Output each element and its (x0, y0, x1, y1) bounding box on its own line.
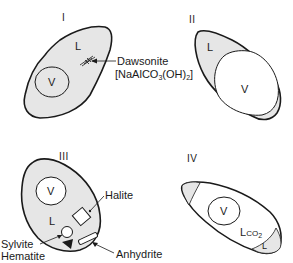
liquid-label-iii: L (49, 215, 55, 227)
halite-label: Halite (105, 189, 133, 201)
hematite-label: Hematite (1, 250, 45, 262)
panel-label-iii: III (59, 151, 69, 163)
anhydrite-arrow-icon (92, 242, 98, 247)
vapor-label-i: V (48, 76, 55, 88)
liquid-label-i: L (75, 40, 81, 52)
halite-leader-dot (89, 210, 91, 212)
inclusion-type-i (24, 27, 116, 118)
vapor-label-iii: V (47, 185, 54, 197)
dawsonite-label: Dawsonite (117, 55, 168, 67)
dawsonite-formula: [NaAlCO3(OH)2] (115, 68, 193, 80)
vapor-label-ii: V (241, 83, 248, 95)
liquid-label-iv: L (262, 240, 267, 252)
panel-label-i: I (62, 12, 65, 24)
panel-label-iv: IV (187, 153, 197, 165)
vapor-label-iv: V (220, 205, 227, 217)
fluid-inclusion-diagram: I L V Dawsonite [NaAlCO3(OH)2] II L V II… (0, 0, 293, 263)
inclusion-i-outline (24, 27, 111, 118)
sylvite-label: Sylvite (1, 238, 33, 250)
anhydrite-label: Anhydrite (116, 248, 162, 260)
sylvite-crystal-icon (62, 227, 73, 238)
inclusion-type-iii (22, 159, 114, 253)
liquid-label-ii: L (207, 41, 213, 53)
panel-label-ii: II (189, 14, 196, 26)
liquid-co2-label: LCO2 (240, 226, 262, 240)
